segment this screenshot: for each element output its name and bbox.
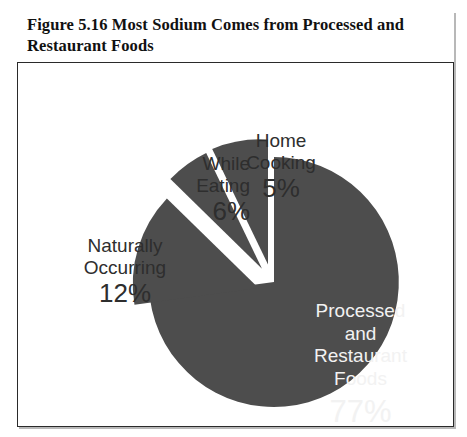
pie-label-while-eating: While Eating 6% <box>140 153 250 226</box>
pie-label-home-cooking-line1: Home <box>227 130 335 152</box>
figure-container: Figure 5.16 Most Sodium Comes from Proce… <box>0 0 467 437</box>
pie-label-processed-line1: Processed <box>293 300 428 323</box>
pie-label-naturally-occurring-line1: Naturally <box>51 235 199 257</box>
pie-label-while-eating-line1: While <box>140 153 250 175</box>
pie-label-processed-line2: and <box>293 323 428 346</box>
pie-label-naturally-occurring: Naturally Occurring 12% <box>51 235 199 308</box>
pie-label-processed-line4: Foods <box>293 368 428 391</box>
pie-label-while-eating-value: 6% <box>140 197 250 226</box>
pie-label-while-eating-line2: Eating <box>140 175 250 197</box>
pie-label-processed-and-restaurant-foods: Processed and Restaurant Foods 77% <box>293 300 428 426</box>
pie-chart-plot-area: Home Cooking 5% While Eating 6% Naturall… <box>18 64 453 426</box>
figure-title-band: Figure 5.16 Most Sodium Comes from Proce… <box>17 11 454 63</box>
pie-label-naturally-occurring-value: 12% <box>51 279 199 308</box>
pie-label-processed-line3: Restaurant <box>293 345 428 368</box>
pie-label-processed-value: 77% <box>293 395 428 426</box>
pie-label-naturally-occurring-line2: Occurring <box>51 257 199 279</box>
figure-title: Figure 5.16 Most Sodium Comes from Proce… <box>27 14 442 56</box>
